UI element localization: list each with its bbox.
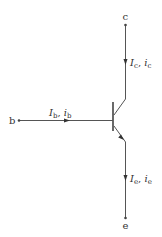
base-terminal-dot [18,119,21,122]
base-ac-sub: b [67,112,72,120]
emitter-ac-sub: e [148,178,152,186]
emitter-current-arrow-icon [124,175,128,181]
collector-terminal-label: c [123,11,129,22]
collector-current-label: Ic, ic [129,57,151,70]
emitter-arrow-icon [118,135,124,141]
emitter-current-label: Ie, ie [129,173,152,186]
emitter-terminal-label: e [123,220,129,231]
base-current-label: Ib, ib [48,107,72,120]
collector-diagonal [114,99,126,115]
collector-terminal-dot [124,24,127,27]
collector-ac-sub: c [147,62,151,70]
base-terminal-label: b [9,115,15,126]
collector-current-arrow-icon [124,59,128,65]
emitter-terminal-dot [124,217,127,220]
transistor-diagram: c b e Ic, ic Ib, ib Ie, ie [0,0,162,237]
